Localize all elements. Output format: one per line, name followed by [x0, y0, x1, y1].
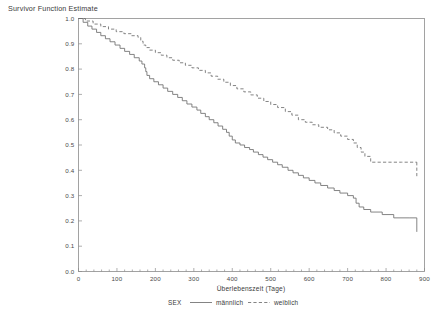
- x-tick-label: 500: [265, 275, 276, 282]
- survival-chart: Survivor Function Estimate 0100200300400…: [0, 0, 439, 318]
- y-tick-label: 0.7: [65, 91, 75, 98]
- y-tick-label: 0.4: [65, 167, 75, 174]
- y-axis-tick-labels: 0.00.10.20.30.40.50.60.70.80.91.0: [65, 15, 75, 275]
- y-tick-label: 0.5: [65, 141, 75, 148]
- chart-legend: SEX männlich weiblich: [168, 299, 299, 306]
- legend-title: SEX: [168, 299, 182, 306]
- y-tick-label: 0.1: [65, 242, 75, 249]
- y-tick-label: 0.3: [65, 192, 75, 199]
- x-axis-ticks: [79, 268, 425, 272]
- curve-weiblich: [79, 19, 417, 177]
- y-tick-label: 0.6: [65, 116, 75, 123]
- survival-curves: [79, 19, 417, 232]
- y-tick-label: 0.2: [65, 217, 75, 224]
- x-tick-label: 100: [111, 275, 122, 282]
- legend-label-weiblich: weiblich: [273, 299, 299, 306]
- plot-canvas: 0100200300400500600700800900 0.00.10.20.…: [0, 0, 439, 318]
- x-tick-label: 300: [188, 275, 199, 282]
- y-axis-ticks: [79, 19, 83, 272]
- x-tick-label: 700: [342, 275, 353, 282]
- x-axis-title: Überlebenszeit (Tage): [217, 285, 286, 293]
- x-tick-label: 0: [77, 275, 81, 282]
- x-axis-tick-labels: 0100200300400500600700800900: [77, 275, 431, 282]
- x-tick-label: 600: [304, 275, 315, 282]
- y-tick-label: 0.0: [65, 268, 75, 275]
- axis-frame: [79, 19, 425, 272]
- y-tick-label: 0.8: [65, 65, 75, 72]
- curve-maennlich: [79, 19, 417, 232]
- legend-label-maennlich: männlich: [216, 299, 243, 306]
- x-tick-label: 900: [419, 275, 430, 282]
- x-tick-label: 400: [227, 275, 238, 282]
- y-tick-label: 1.0: [65, 15, 75, 22]
- y-tick-label: 0.9: [65, 40, 75, 47]
- x-tick-label: 800: [381, 275, 392, 282]
- x-tick-label: 200: [150, 275, 161, 282]
